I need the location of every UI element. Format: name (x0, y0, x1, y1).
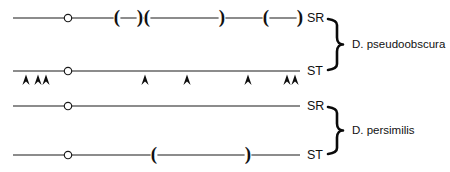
inversion-breakpoint-close-icon: ) (137, 6, 143, 28)
inversion-breakpoint-open-icon: ( (151, 143, 157, 165)
row-st-pseudoobscura: ST (13, 64, 323, 85)
inversion-breakpoint-open-icon: ( (114, 6, 120, 28)
group-brace-icon (328, 19, 343, 70)
row-label: ST (307, 148, 323, 162)
row-sr-pseudoobscura: ()()()SR (13, 6, 324, 28)
inversion-breakpoint-close-icon: ) (219, 6, 225, 28)
chromosome-diagram: ()()()SRSTSR()STD. pseudoobscuraD. persi… (0, 0, 450, 172)
inversion-breakpoint-open-icon: ( (144, 6, 150, 28)
marker-arrowhead-icon (42, 75, 49, 86)
marker-arrowhead-icon (22, 75, 29, 86)
row-sr-persimilis: SR (13, 99, 324, 113)
inversion-breakpoint-open-icon: ( (263, 6, 269, 28)
group-pseudoobscura: D. pseudoobscura (328, 19, 446, 70)
centromere-circle-icon (64, 151, 71, 158)
centromere-circle-icon (64, 14, 71, 21)
row-st-persimilis: ()ST (13, 143, 323, 165)
species-label: D. persimilis (352, 124, 415, 136)
diagram-canvas: ()()()SRSTSR()STD. pseudoobscuraD. persi… (0, 0, 450, 172)
marker-arrowhead-icon (283, 75, 290, 86)
group-brace-icon (328, 107, 343, 154)
group-persimilis: D. persimilis (328, 107, 415, 154)
marker-arrowhead-icon (183, 75, 190, 86)
species-label: D. pseudoobscura (352, 38, 446, 50)
marker-arrowhead-icon (34, 75, 41, 86)
row-label: SR (307, 99, 324, 113)
marker-arrowhead-icon (244, 75, 251, 86)
marker-arrowhead-icon (141, 75, 148, 86)
inversion-breakpoint-close-icon: ) (245, 143, 251, 165)
centromere-circle-icon (64, 67, 71, 74)
row-label: ST (307, 64, 323, 78)
centromere-circle-icon (64, 102, 71, 109)
row-label: SR (307, 11, 324, 25)
inversion-breakpoint-close-icon: ) (297, 6, 303, 28)
marker-arrowhead-icon (291, 75, 298, 86)
